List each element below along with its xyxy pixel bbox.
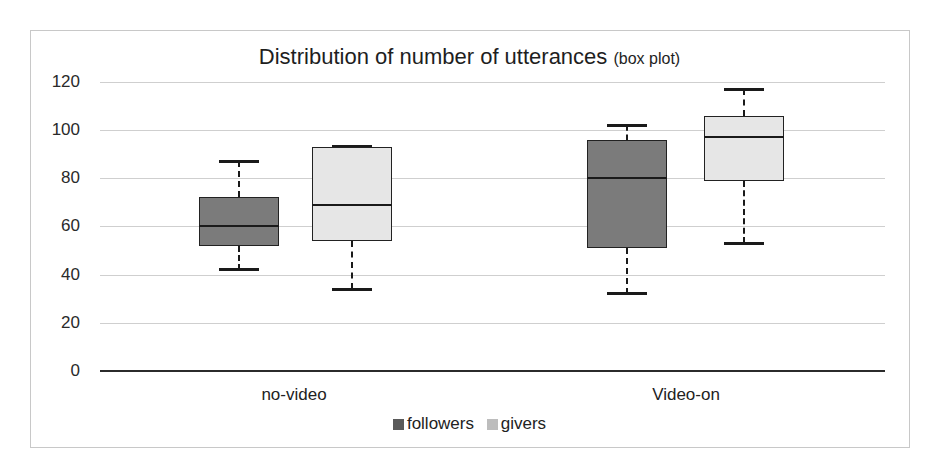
- y-tick-label-120: 120: [30, 72, 80, 92]
- legend-label-givers: givers: [501, 414, 546, 434]
- box-givers-video-on: [704, 116, 784, 181]
- x-category-video-on: Video-on: [586, 385, 786, 405]
- y-tick-label-100: 100: [30, 120, 80, 140]
- whisker-lower-followers-video-on: [626, 248, 628, 294]
- whisker-upper-givers-video-on: [743, 89, 745, 116]
- legend-swatch-followers: [393, 419, 404, 430]
- legend: followers givers: [0, 414, 939, 435]
- whisker-lower-givers-no-video: [351, 241, 353, 289]
- gridline-120: [100, 82, 885, 83]
- cap-lower-givers-video-on: [724, 242, 764, 245]
- median-givers-no-video: [312, 204, 392, 206]
- legend-item-followers: followers: [393, 414, 474, 434]
- chart-subtitle: (box plot): [613, 50, 680, 67]
- cap-lower-givers-no-video: [332, 288, 372, 291]
- legend-label-followers: followers: [407, 414, 474, 434]
- y-tick-label-20: 20: [30, 313, 80, 333]
- x-axis-line: [100, 370, 885, 372]
- legend-swatch-givers: [487, 419, 498, 430]
- legend-item-givers: givers: [487, 414, 546, 434]
- median-followers-video-on: [587, 177, 667, 179]
- gridline-40: [100, 275, 885, 276]
- whisker-upper-followers-no-video: [238, 161, 240, 197]
- y-tick-label-40: 40: [30, 265, 80, 285]
- cap-lower-followers-no-video: [219, 268, 259, 271]
- y-tick-label-60: 60: [30, 216, 80, 236]
- chart-title: Distribution of number of utterances (bo…: [0, 44, 939, 70]
- whisker-lower-followers-no-video: [238, 246, 240, 270]
- cap-upper-followers-video-on: [607, 124, 647, 127]
- gridline-20: [100, 323, 885, 324]
- whisker-upper-followers-video-on: [626, 125, 628, 139]
- y-tick-label-80: 80: [30, 168, 80, 188]
- median-givers-video-on: [704, 136, 784, 138]
- cap-lower-followers-video-on: [607, 292, 647, 295]
- chart-title-main: Distribution of number of utterances: [259, 44, 614, 69]
- box-followers-no-video: [199, 197, 279, 245]
- whisker-lower-givers-video-on: [743, 181, 745, 244]
- cap-upper-givers-video-on: [724, 88, 764, 91]
- box-followers-video-on: [587, 140, 667, 248]
- y-tick-label-0: 0: [30, 361, 80, 381]
- x-category-no-video: no-video: [194, 385, 394, 405]
- median-followers-no-video: [199, 225, 279, 227]
- box-givers-no-video: [312, 147, 392, 241]
- cap-upper-followers-no-video: [219, 160, 259, 163]
